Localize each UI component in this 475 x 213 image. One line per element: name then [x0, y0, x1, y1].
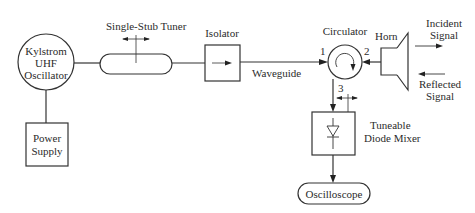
horn-antenna: Horn — [375, 30, 408, 90]
port-1-label: 1 — [320, 45, 326, 57]
oscilloscope-label: Oscilloscope — [306, 188, 363, 200]
oscillator-label-1: Kylstrom — [25, 45, 67, 57]
single-stub-tuner: Single-Stub Tuner — [100, 20, 187, 74]
reflected-label-1: Reflected — [419, 78, 462, 90]
power-supply-label-2: Supply — [31, 145, 63, 157]
port-3-label: 3 — [338, 82, 344, 94]
circulator-label: Circulator — [323, 25, 368, 37]
port-2-label: 2 — [364, 45, 370, 57]
mixer-tune-right-icon — [352, 96, 358, 100]
incident-signal: Incident Signal — [415, 17, 462, 49]
mixer-label-2: Diode Mixer — [364, 132, 421, 144]
arrow-left-icon — [122, 37, 128, 41]
oscillator-label-2: UHF — [35, 57, 57, 69]
mixer-label-1: Tuneable — [370, 119, 411, 131]
isolator-label: Isolator — [205, 27, 239, 39]
power-supply-label-1: Power — [33, 132, 61, 144]
reflected-arrow-icon — [418, 72, 425, 77]
incident-label-1: Incident — [426, 17, 462, 29]
isolator: Isolator — [205, 27, 240, 81]
block-diagram: Kylstrom UHF Oscillator Power Supply Sin… — [0, 0, 475, 213]
power-supply: Power Supply — [26, 123, 68, 166]
oscillator-label-3: Oscillator — [24, 69, 68, 81]
reflected-label-2: Signal — [426, 90, 454, 102]
arrow-right-icon — [144, 37, 150, 41]
tuneable-diode-mixer: Tuneable Diode Mixer — [312, 112, 421, 155]
port3-arrow-icon — [330, 104, 336, 112]
oscilloscope: Oscilloscope — [298, 183, 370, 204]
mixer-tune-left-icon — [336, 96, 342, 100]
port2-arrow-icon — [362, 59, 370, 65]
circulator: Circulator 1 2 3 — [320, 25, 370, 94]
incident-label-2: Signal — [430, 29, 458, 41]
horn-label: Horn — [375, 30, 398, 42]
incident-arrow-icon — [436, 44, 443, 49]
waveguide-label: Waveguide — [252, 67, 301, 79]
kylstrom-oscillator: Kylstrom UHF Oscillator — [18, 34, 74, 90]
scope-arrow-icon — [330, 175, 336, 183]
port1-arrow-icon — [319, 59, 328, 65]
stub-tuner-label: Single-Stub Tuner — [106, 20, 187, 32]
reflected-signal: Reflected Signal — [418, 72, 462, 103]
